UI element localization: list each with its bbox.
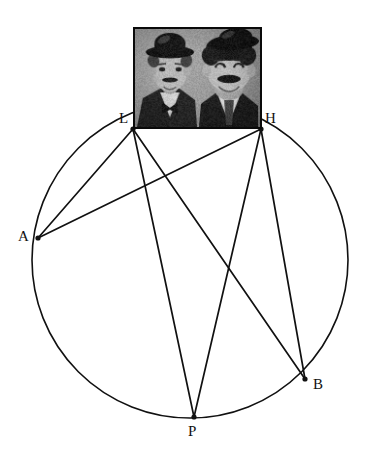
vertex-point-b	[302, 376, 307, 381]
circumscribed-circle	[32, 102, 348, 418]
vertex-label-h: H	[265, 111, 276, 126]
photo-inset	[133, 27, 262, 129]
photo-image	[135, 29, 260, 127]
chord-layer	[38, 129, 305, 417]
vertex-point-a	[35, 235, 40, 240]
vertex-label-a: A	[18, 229, 29, 244]
vertex-label-b: B	[313, 377, 323, 392]
vertex-label-p: P	[188, 424, 196, 439]
vertex-layer	[35, 126, 307, 419]
circle-layer	[32, 102, 348, 418]
vertex-point-p	[191, 414, 196, 419]
chord-H-A	[38, 129, 261, 238]
chord-H-B	[261, 129, 305, 379]
geometry-figure: LHABP	[0, 0, 370, 456]
vertex-label-l: L	[119, 111, 128, 126]
chord-H-P	[194, 129, 261, 417]
